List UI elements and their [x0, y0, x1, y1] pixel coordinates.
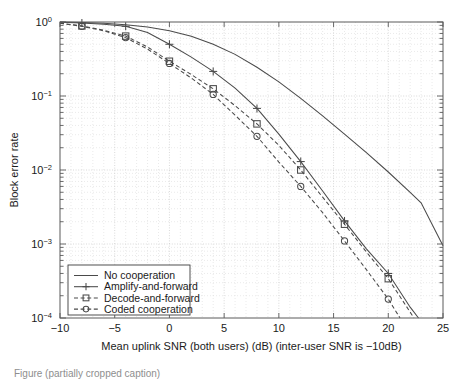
x-tick-label: 15 — [327, 322, 339, 334]
y-tick-label: 10−4 — [31, 311, 52, 325]
legend-label: Amplify-and-forward — [104, 280, 198, 292]
legend: No cooperationAmplify-and-forwardDecode-… — [68, 265, 200, 315]
legend-label: Coded cooperation — [104, 303, 193, 315]
legend-label: No cooperation — [104, 269, 175, 281]
y-tick-label: 100 — [36, 15, 52, 29]
x-tick-label: 0 — [166, 322, 172, 334]
caption-strip: Figure (partially cropped caption) — [0, 366, 463, 380]
y-tick-label: 10−2 — [31, 163, 52, 177]
legend-label: Decode-and-forward — [104, 292, 200, 304]
y-axis-label: Block error rate — [8, 132, 20, 207]
x-tick-label: −10 — [51, 322, 70, 334]
series-markers-circle — [79, 23, 392, 302]
block-error-rate-chart: −10−5051015202510010−110−210−310−4Mean u… — [0, 0, 463, 380]
y-tick-label: 10−3 — [31, 237, 52, 251]
x-tick-label: 5 — [221, 322, 227, 334]
figure-caption: Figure (partially cropped caption) — [14, 368, 160, 379]
y-tick-label: 10−1 — [31, 89, 52, 103]
figure-container: −10−5051015202510010−110−210−310−4Mean u… — [0, 0, 463, 380]
x-tick-label: 20 — [382, 322, 394, 334]
x-tick-label: −5 — [108, 322, 121, 334]
x-tick-label: 10 — [273, 322, 285, 334]
x-tick-label: 25 — [437, 322, 449, 334]
x-axis-label: Mean uplink SNR (both users) (dB) (inter… — [101, 340, 401, 352]
series-line-no-cooperation — [60, 22, 443, 246]
